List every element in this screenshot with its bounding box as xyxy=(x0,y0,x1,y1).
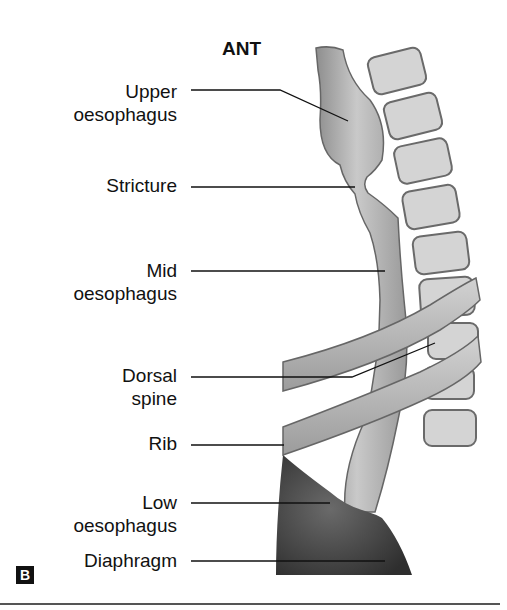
label-line: oesophagus xyxy=(73,103,177,126)
label-diaphragm: Diaphragm xyxy=(84,549,177,572)
label-mid-oesophagus: Mid oesophagus xyxy=(73,259,177,305)
label-line: Low xyxy=(73,491,177,514)
label-dorsal-spine: Dorsal spine xyxy=(122,364,177,410)
label-line: oesophagus xyxy=(73,514,177,537)
label-line: Mid xyxy=(73,259,177,282)
panel-badge: B xyxy=(16,566,34,584)
anterior-label: ANT xyxy=(222,38,261,60)
label-stricture: Stricture xyxy=(106,174,177,197)
label-line: Diaphragm xyxy=(84,549,177,572)
label-low-oesophagus: Low oesophagus xyxy=(73,491,177,537)
label-line: Rib xyxy=(148,432,177,455)
diaphragm xyxy=(276,455,412,575)
label-line: Dorsal xyxy=(122,364,177,387)
label-line: spine xyxy=(122,387,177,410)
label-upper-oesophagus: Upper oesophagus xyxy=(73,80,177,126)
label-line: oesophagus xyxy=(73,282,177,305)
bottom-rule xyxy=(0,603,500,605)
label-rib: Rib xyxy=(148,432,177,455)
label-line: Upper xyxy=(73,80,177,103)
label-line: Stricture xyxy=(106,174,177,197)
